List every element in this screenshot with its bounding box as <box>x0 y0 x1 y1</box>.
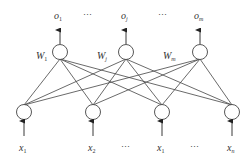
input-label-i: x1 <box>156 142 164 154</box>
input-ellipsis-2: ⋯ <box>190 142 199 152</box>
output-label-m: om <box>194 10 204 22</box>
input-node-2 <box>86 105 101 120</box>
neural-network-diagram: o1 ⋯ oj ⋯ om W1 Wj Wm x1 x2 ⋯ x1 ⋯ xn <box>0 0 252 162</box>
output-node-m <box>193 45 208 60</box>
input-label-1: x1 <box>18 142 26 154</box>
output-layer <box>53 45 208 60</box>
connections <box>24 59 232 105</box>
input-label-n: xn <box>226 142 234 154</box>
input-node-n <box>225 105 240 120</box>
input-node-i <box>155 105 170 120</box>
output-ellipsis-2: ⋯ <box>158 10 167 20</box>
output-node-j <box>119 45 134 60</box>
input-layer <box>17 105 240 120</box>
input-label-2: x2 <box>87 142 95 154</box>
output-label-j: oj <box>121 10 128 22</box>
weight-label-j: Wj <box>97 50 107 62</box>
weight-label-m: Wm <box>163 50 176 62</box>
output-ellipsis-1: ⋯ <box>83 10 92 20</box>
output-label-1: o1 <box>54 10 62 22</box>
weight-label-1: W1 <box>36 50 47 62</box>
input-ellipsis-1: ⋯ <box>121 142 130 152</box>
input-arrows <box>24 121 232 136</box>
output-node-1 <box>53 45 68 60</box>
output-arrows <box>60 30 200 44</box>
input-node-1 <box>17 105 32 120</box>
